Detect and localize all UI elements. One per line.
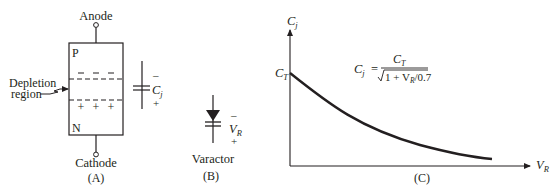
formula-denominator: 1 + VR/0.7 [385,71,432,85]
cathode-label: Cathode [75,156,117,170]
cap-minus-label: – [152,69,159,81]
varactor-label: Varactor [192,152,235,166]
panel-b-varactor-symbol: – VR + Varactor (B) [192,95,243,183]
vr-plus-label: + [231,135,237,147]
diagram-canvas: Anode P N + + + Depletion region Cathode… [0,0,556,193]
y-axis-label: Cj [287,14,298,30]
panel-a-caption: (A) [88,171,105,185]
formula-equals: = [371,62,378,76]
panel-a-junction-diagram: Anode P N + + + Depletion region Cathode… [9,9,163,185]
svg-text:+: + [93,100,100,114]
depletion-label-line2: region [11,87,42,101]
panel-b-caption: (B) [203,169,219,183]
x-axis-label: VR [536,158,550,174]
anode-terminal-icon [94,23,99,28]
capacitance-formula: Cj = CT 1 + VR/0.7 [354,52,432,85]
formula-lhs: Cj [354,62,365,78]
diode-triangle-icon [206,110,220,121]
svg-text:+: + [78,100,85,114]
panel-c-caption: (C) [414,171,430,185]
ct-intercept-label: CT [275,66,289,82]
panel-c-capacitance-chart: Cj VR CT Cj = CT 1 + VR/0.7 (C) [275,14,550,185]
svg-text:+: + [108,100,115,114]
vr-minus-label: – [230,109,237,121]
anode-label: Anode [79,9,113,23]
p-region-label: P [72,46,79,60]
formula-numerator: CT [393,52,406,68]
junction-capacitor-icon [133,61,150,109]
positive-charges: + + + [78,100,115,114]
cap-plus-label: + [153,97,159,109]
n-region-label: N [72,121,81,135]
capacitance-curve [290,73,492,159]
